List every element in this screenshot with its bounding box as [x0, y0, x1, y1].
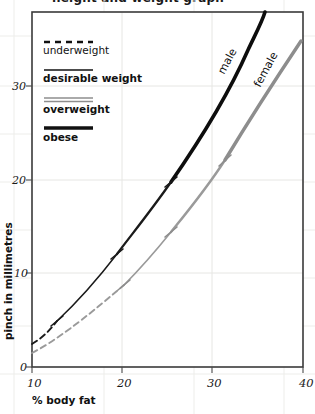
- legend-item-desirable-weight: desirable weight: [43, 70, 142, 84]
- y-axis-ticks: [26, 86, 32, 367]
- legend-label-underweight: underweight: [43, 44, 109, 56]
- pinch-body-fat-chart: male female underweight desirable weight…: [0, 0, 315, 414]
- legend-label-overweight: overweight: [43, 103, 110, 115]
- x-axis-title: % body fat: [32, 394, 96, 406]
- chart-container: height and weight graph: [0, 0, 315, 414]
- legend-label-obese: obese: [43, 131, 78, 143]
- x-tick-label-10: 10: [27, 376, 42, 390]
- y-tick-label-30: 30: [12, 80, 26, 93]
- x-tick-label-30: 30: [207, 376, 222, 390]
- legend-label-desirable-weight: desirable weight: [43, 72, 142, 84]
- x-axis-ticks: [32, 367, 303, 373]
- y-tick-label-20: 20: [11, 174, 26, 187]
- x-tick-label-20: 20: [116, 376, 132, 390]
- y-tick-label-10: 10: [14, 267, 28, 280]
- x-axis: 10 20 30 40 % body fat: [27, 367, 314, 406]
- y-tick-label-0: 0: [20, 361, 27, 374]
- x-tick-label-40: 40: [298, 376, 314, 390]
- y-axis-title: pinch in millimetres: [2, 222, 14, 340]
- legend-item-underweight: underweight: [43, 42, 109, 56]
- y-axis: 30 20 10 0 pinch in millimetres: [2, 80, 32, 374]
